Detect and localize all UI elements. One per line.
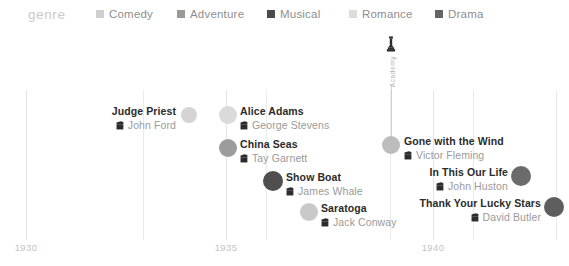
gridline xyxy=(556,90,557,240)
data-point[interactable] xyxy=(300,203,318,221)
director-row: James Whale xyxy=(286,185,363,198)
legend-title: genre xyxy=(28,7,66,22)
x-axis-tick-label: 1940 xyxy=(422,242,445,253)
legend-item-label: Drama xyxy=(448,8,484,20)
legend-swatch-icon xyxy=(177,10,185,18)
film-title: Thank Your Lucky Stars xyxy=(420,197,541,210)
legend-item-comedy[interactable]: Comedy xyxy=(96,8,153,20)
point-label[interactable]: In This Our LifeJohn Huston xyxy=(429,166,508,193)
data-point[interactable] xyxy=(219,106,237,124)
director-name: Tay Garnett xyxy=(252,152,307,165)
point-label[interactable]: SaratogaJack Conway xyxy=(321,202,397,229)
legend-item-drama[interactable]: Drama xyxy=(435,8,484,20)
film-title: In This Our Life xyxy=(429,166,508,179)
director-name: Jack Conway xyxy=(333,216,397,229)
legend-item-label: Musical xyxy=(280,8,320,20)
director-name: James Whale xyxy=(298,185,363,198)
director-name: George Stevens xyxy=(252,119,329,132)
clapperboard-icon xyxy=(116,121,125,130)
clapperboard-icon xyxy=(436,182,445,191)
director-name: John Ford xyxy=(128,119,176,132)
legend-item-adventure[interactable]: Adventure xyxy=(177,8,244,20)
director-row: Victor Fleming xyxy=(404,149,504,162)
legend-swatch-icon xyxy=(96,10,104,18)
point-label[interactable]: Show BoatJames Whale xyxy=(286,171,363,198)
film-title: Show Boat xyxy=(286,171,363,184)
director-name: John Huston xyxy=(448,180,508,193)
director-name: David Butler xyxy=(483,211,541,224)
film-title: China Seas xyxy=(240,138,307,151)
annotation-label: Academy xyxy=(389,56,396,87)
director-row: John Huston xyxy=(429,180,508,193)
point-label[interactable]: China SeasTay Garnett xyxy=(240,138,307,165)
data-point[interactable] xyxy=(382,136,400,154)
film-title: Alice Adams xyxy=(240,105,329,118)
point-label[interactable]: Thank Your Lucky StarsDavid Butler xyxy=(420,197,541,224)
clapperboard-icon xyxy=(404,151,413,160)
director-row: David Butler xyxy=(420,211,541,224)
point-label[interactable]: Judge PriestJohn Ford xyxy=(112,105,176,132)
director-name: Victor Fleming xyxy=(416,149,484,162)
clapperboard-icon xyxy=(321,218,330,227)
legend-item-label: Romance xyxy=(362,8,413,20)
annotation-connector-line xyxy=(391,86,392,142)
legend-swatch-icon xyxy=(435,10,443,18)
director-row: Tay Garnett xyxy=(240,152,307,165)
film-title: Saratoga xyxy=(321,202,397,215)
x-axis-tick-label: 1935 xyxy=(215,242,238,253)
clapperboard-icon xyxy=(286,187,295,196)
oscar-statuette-icon xyxy=(386,36,397,57)
data-point[interactable] xyxy=(219,139,237,157)
genre-legend: genre ComedyAdventureMusicalRomanceDrama xyxy=(0,0,569,34)
clapperboard-icon xyxy=(240,154,249,163)
legend-item-label: Adventure xyxy=(190,8,244,20)
director-row: John Ford xyxy=(112,119,176,132)
film-title: Judge Priest xyxy=(112,105,176,118)
x-axis-tick-label: 1930 xyxy=(15,242,38,253)
point-label[interactable]: Gone with the WindVictor Fleming xyxy=(404,135,504,162)
legend-swatch-icon xyxy=(349,10,357,18)
data-point[interactable] xyxy=(511,166,531,186)
director-row: George Stevens xyxy=(240,119,329,132)
clapperboard-icon xyxy=(240,121,249,130)
legend-swatch-icon xyxy=(267,10,275,18)
data-point[interactable] xyxy=(263,171,283,191)
film-title: Gone with the Wind xyxy=(404,135,504,148)
gridline xyxy=(26,90,27,240)
legend-item-romance[interactable]: Romance xyxy=(349,8,413,20)
data-point[interactable] xyxy=(544,197,564,217)
legend-item-musical[interactable]: Musical xyxy=(267,8,320,20)
clapperboard-icon xyxy=(471,213,480,222)
legend-item-label: Comedy xyxy=(109,8,153,20)
point-label[interactable]: Alice AdamsGeorge Stevens xyxy=(240,105,329,132)
scatter-plot-canvas: 193019351940 Academy Judge PriestJohn Fo… xyxy=(0,34,569,266)
director-row: Jack Conway xyxy=(321,216,397,229)
data-point[interactable] xyxy=(181,107,197,123)
